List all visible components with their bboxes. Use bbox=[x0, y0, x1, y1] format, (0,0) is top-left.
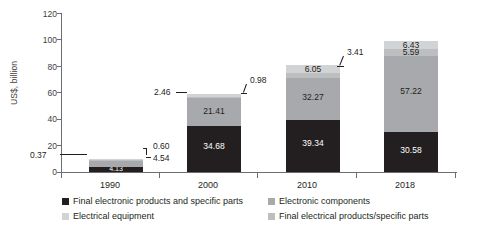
x-tick-label-2000: 2000 bbox=[173, 180, 243, 190]
callout-2000-final-electrical: 0.98 bbox=[250, 75, 267, 85]
callout-2010-final-electrical: 3.41 bbox=[347, 47, 364, 57]
bar-segment-2000-final-electrical[interactable] bbox=[187, 97, 241, 98]
bar-value-2018-final-electronic: 30.58 bbox=[384, 146, 438, 155]
leader-2000-final-electrical-h bbox=[241, 93, 247, 94]
bar-segment-2018-electronic-components[interactable]: 57.22 bbox=[384, 56, 438, 131]
x-tick-label-2010: 2010 bbox=[272, 180, 342, 190]
leader-1990-final-electrical-v bbox=[146, 148, 147, 155]
callout-1990-final-electrical: 0.60 bbox=[153, 141, 170, 151]
y-axis-title: US$, billion bbox=[9, 43, 19, 123]
legend-label-final-electrical-products: Final electrical products/specific parts bbox=[279, 211, 429, 221]
leader-2000-final-electrical-v bbox=[243, 84, 247, 93]
legend-swatch-icon-final-electronic-products bbox=[62, 198, 69, 205]
x-tick-mark-1 bbox=[159, 173, 160, 178]
bar-group-2000[interactable]: 34.68 21.41 bbox=[187, 94, 241, 172]
bar-group-2018[interactable]: 30.58 57.22 5.59 6.43 bbox=[384, 41, 438, 173]
legend-item-final-electronic-products[interactable]: Final electronic products and specific p… bbox=[62, 196, 243, 206]
legend-item-electronic-components[interactable]: Electronic components bbox=[268, 196, 370, 206]
y-tick-label-80: 80 bbox=[30, 62, 57, 72]
bar-value-2018-electrical-equipment: 6.43 bbox=[384, 41, 438, 50]
bar-segment-1990-electronic-components[interactable] bbox=[89, 161, 143, 167]
bar-segment-2000-final-electronic[interactable]: 34.68 bbox=[187, 126, 241, 172]
bar-segment-2000-electrical-equipment[interactable] bbox=[187, 94, 241, 97]
leader-2000-electrical-equipment bbox=[176, 92, 187, 93]
leader-2010-final-electrical-v bbox=[339, 56, 344, 66]
bar-segment-2000-electronic-components[interactable]: 21.41 bbox=[187, 98, 241, 126]
bar-segment-1990-final-electronic[interactable]: 4.13 bbox=[89, 167, 143, 172]
bar-segment-1990-final-electrical[interactable] bbox=[89, 160, 143, 161]
x-tick-mark-3 bbox=[356, 173, 357, 178]
legend-swatch-icon-final-electrical-products bbox=[268, 213, 275, 220]
callout-1990-electrical-equipment: 0.37 bbox=[30, 150, 47, 160]
leader-2010-final-electrical-h bbox=[337, 66, 344, 67]
bar-value-2000-electronic-components: 21.41 bbox=[187, 107, 241, 116]
bar-segment-2010-final-electronic[interactable]: 39.34 bbox=[286, 120, 340, 172]
callout-2000-electrical-equipment: 2.46 bbox=[154, 87, 171, 97]
legend-label-final-electronic-products: Final electronic products and specific p… bbox=[73, 196, 243, 206]
legend-item-electrical-equipment[interactable]: Electrical equipment bbox=[62, 211, 154, 221]
y-tick-label-40: 40 bbox=[30, 114, 57, 124]
bar-segment-2018-final-electrical[interactable]: 5.59 bbox=[384, 49, 438, 56]
bar-segment-2010-electronic-components[interactable]: 32.27 bbox=[286, 78, 340, 121]
y-tick-label-120: 120 bbox=[30, 9, 57, 19]
legend-item-final-electrical-products[interactable]: Final electrical products/specific parts bbox=[268, 211, 429, 221]
x-tick-label-1990: 1990 bbox=[75, 180, 145, 190]
x-tick-mark-0 bbox=[61, 173, 62, 178]
bar-segment-2018-final-electronic[interactable]: 30.58 bbox=[384, 132, 438, 172]
leader-1990-electronic-components bbox=[146, 157, 151, 158]
x-tick-mark-2 bbox=[257, 173, 258, 178]
bar-segment-2018-electrical-equipment[interactable]: 6.43 bbox=[384, 41, 438, 49]
y-tick-label-100: 100 bbox=[30, 35, 57, 45]
y-tick-label-0: 0 bbox=[30, 167, 57, 177]
y-tick-label-60: 60 bbox=[30, 88, 57, 98]
leader-1990-electrical-equipment bbox=[60, 154, 87, 155]
legend-label-electronic-components: Electronic components bbox=[279, 196, 370, 206]
x-tick-mark-4 bbox=[455, 173, 456, 178]
x-axis-line bbox=[61, 172, 457, 173]
bar-value-2000-final-electronic: 34.68 bbox=[187, 142, 241, 151]
x-tick-label-2018: 2018 bbox=[370, 180, 440, 190]
legend-swatch-icon-electronic-components bbox=[268, 198, 275, 205]
bar-group-1990[interactable]: 4.13 bbox=[89, 159, 143, 172]
bar-value-2018-final-electrical: 5.59 bbox=[384, 48, 438, 57]
stacked-bar-chart: US$, billion 120 100 80 60 40 20 0 1990 … bbox=[0, 0, 478, 238]
bar-value-2018-electronic-components: 57.22 bbox=[384, 87, 438, 96]
bar-value-2010-electrical-equipment: 6.05 bbox=[286, 65, 340, 74]
bar-segment-2010-electrical-equipment[interactable]: 6.05 bbox=[286, 65, 340, 73]
callout-1990-electronic-components: 4.54 bbox=[153, 153, 170, 163]
legend-label-electrical-equipment: Electrical equipment bbox=[73, 211, 154, 221]
legend-swatch-icon-electrical-equipment bbox=[62, 213, 69, 220]
plot-area: 4.13 0.37 0.60 4.54 34.68 21.41 2.46 0 bbox=[62, 14, 455, 172]
bar-value-2010-final-electronic: 39.34 bbox=[286, 139, 340, 148]
leader-1990-final-electrical-h bbox=[143, 148, 147, 149]
chart-legend: Final electronic products and specific p… bbox=[62, 196, 462, 226]
bar-value-2010-electronic-components: 32.27 bbox=[286, 93, 340, 102]
bar-group-2010[interactable]: 39.34 32.27 6.05 bbox=[286, 65, 340, 172]
